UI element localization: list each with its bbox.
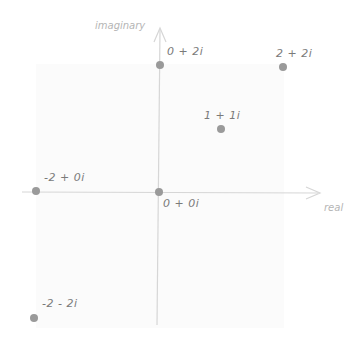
point-2-plus-2i bbox=[279, 63, 287, 71]
point-neg2-plus-0i bbox=[32, 187, 40, 195]
real-axis-line bbox=[22, 192, 318, 193]
point-0-plus-0i bbox=[155, 188, 163, 196]
imaginary-axis-label: imaginary bbox=[95, 20, 145, 31]
point-0-plus-2i bbox=[156, 61, 164, 69]
point-label-neg2-plus-0i: -2 + 0i bbox=[44, 171, 85, 184]
complex-plane-diagram: imaginary real 0 + 2i 2 + 2i 1 + 1i -2 +… bbox=[0, 0, 363, 343]
real-axis-label: real bbox=[324, 202, 343, 213]
point-neg2-minus-2i bbox=[30, 314, 38, 322]
point-label-0-plus-2i: 0 + 2i bbox=[167, 45, 203, 58]
imaginary-axis-line bbox=[157, 30, 160, 325]
point-label-neg2-minus-2i: -2 - 2i bbox=[42, 297, 78, 310]
point-1-plus-1i bbox=[217, 125, 225, 133]
point-label-1-plus-1i: 1 + 1i bbox=[204, 109, 240, 122]
point-label-2-plus-2i: 2 + 2i bbox=[276, 47, 312, 60]
point-label-0-plus-0i: 0 + 0i bbox=[163, 197, 199, 210]
